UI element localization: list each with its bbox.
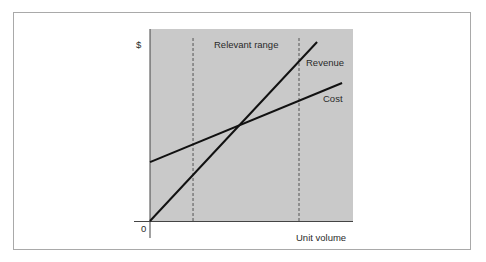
origin-label: 0	[141, 223, 146, 234]
cost-label: Cost	[323, 93, 343, 104]
revenue-label: Revenue	[306, 57, 344, 68]
break-even-chart: $ 0 Unit volume Relevant range Revenue C…	[0, 0, 486, 262]
x-axis-label: Unit volume	[296, 232, 346, 243]
relevant-range-label: Relevant range	[214, 39, 278, 50]
y-axis-label: $	[136, 39, 142, 50]
